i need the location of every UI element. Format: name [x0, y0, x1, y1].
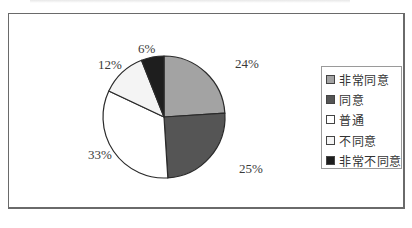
pct-label-very-agree: 24% — [235, 56, 259, 71]
legend-item-disagree: 不同意 — [322, 130, 401, 150]
legend-swatch — [326, 75, 335, 84]
legend-item-very-agree: 非常同意 — [322, 69, 401, 89]
legend-swatch — [326, 95, 335, 104]
legend-label: 非常不同意 — [339, 152, 402, 169]
legend-item-agree: 同意 — [322, 89, 401, 109]
chart-legend: 非常同意 同意 普通 不同意 非常不同意 — [321, 66, 402, 169]
legend-swatch — [326, 136, 335, 145]
legend-item-very-disagree: 非常不同意 — [322, 151, 401, 171]
legend-swatch — [326, 115, 335, 124]
pct-label-agree: 25% — [239, 161, 263, 176]
pct-label-neutral: 33% — [88, 147, 112, 162]
legend-label: 不同意 — [339, 132, 377, 149]
legend-label: 同意 — [339, 91, 364, 108]
pct-label-very-disagree: 6% — [138, 41, 156, 56]
legend-item-neutral: 普通 — [322, 110, 401, 130]
legend-swatch — [326, 156, 335, 165]
pie-slice-0 — [164, 56, 225, 117]
legend-label: 非常同意 — [339, 71, 389, 88]
legend-label: 普通 — [339, 111, 364, 128]
pie-slice-1 — [164, 113, 225, 178]
pct-label-disagree: 12% — [98, 57, 122, 72]
pie-slices — [103, 56, 225, 178]
